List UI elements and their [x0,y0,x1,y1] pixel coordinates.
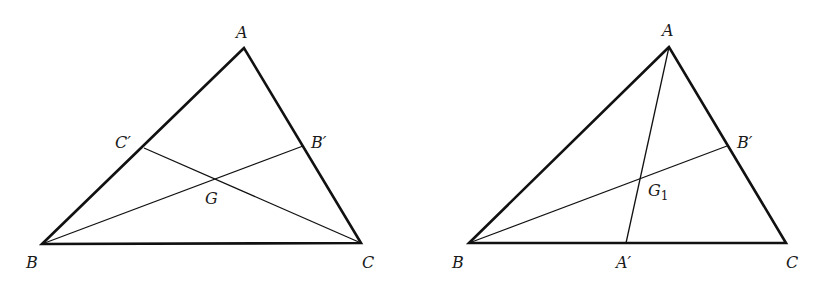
right-label-a: A [660,21,674,40]
right-label-a-prime: A′ [614,253,632,272]
right-label-g1-subscript: 1 [661,189,669,203]
left-label-b-prime: B′ [310,133,327,152]
left-label-c: C [362,253,374,272]
right-label-b-prime: B′ [736,133,753,152]
right-median-bb-prime [469,146,727,243]
left-label-b: B [25,253,38,272]
right-label-g1: G1 [648,181,668,203]
left-triangle-figure: A B C C′ B′ G [25,23,374,272]
right-median-aa-prime [626,47,669,243]
right-label-g1-letter: G [648,181,661,200]
left-label-a: A [234,23,248,42]
right-label-c: C [786,253,798,272]
figure-canvas: A B C C′ B′ G A B C A′ B′ G1 [0,0,824,284]
left-label-g: G [205,189,218,208]
right-label-b: B [451,253,464,272]
right-triangle-figure: A B C A′ B′ G1 [451,21,798,272]
left-label-c-prime: C′ [115,133,131,152]
left-median-cc-prime [144,148,361,243]
